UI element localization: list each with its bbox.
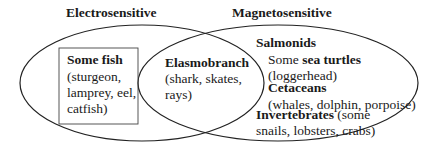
- sea-turtles-prefix: Some: [268, 52, 302, 67]
- sea-turtles-label: Some sea turtles: [268, 52, 361, 68]
- invertebrates-detail-1: (some: [334, 107, 370, 122]
- elasmobranch-line-2: rays): [165, 87, 192, 103]
- magnetosensitive-title: Magnetosensitive: [232, 5, 332, 21]
- some-fish-line-1: (sturgeon,: [67, 69, 121, 85]
- some-fish-line-2: lamprey, eel,: [67, 85, 136, 101]
- invertebrates-bold: Invertebrates: [256, 107, 334, 122]
- some-fish-title: Some fish: [67, 52, 123, 68]
- some-fish-line-3: catfish): [67, 101, 107, 117]
- sea-turtles-bold: sea turtles: [302, 52, 361, 67]
- invertebrates-label: Invertebrates (some: [256, 107, 370, 123]
- salmonids-label: Salmonids: [256, 35, 316, 51]
- cetaceans-label: Cetaceans: [268, 80, 326, 96]
- electrosensitive-title: Electrosensitive: [66, 5, 156, 21]
- elasmobranch-title: Elasmobranch: [165, 55, 249, 71]
- invertebrates-detail-2: snails, lobsters, crabs): [256, 123, 375, 139]
- elasmobranch-line-1: (shark, skates,: [165, 71, 242, 87]
